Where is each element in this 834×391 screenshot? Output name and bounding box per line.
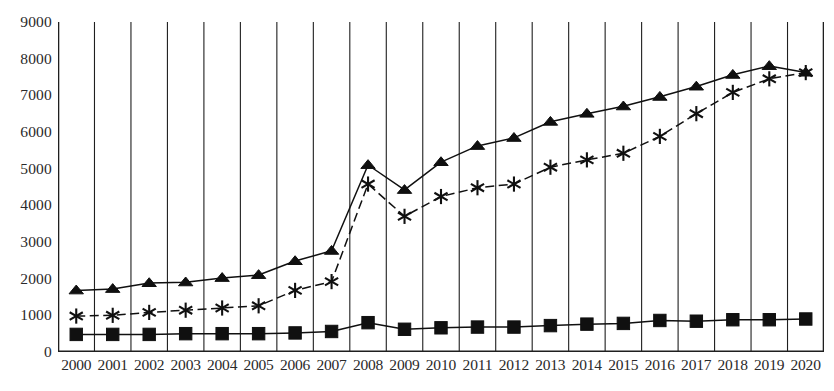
x-axis-tick-label: 2008 bbox=[350, 356, 386, 384]
y-axis-tick-label: 2000 bbox=[20, 270, 52, 288]
marker-square bbox=[800, 313, 812, 325]
marker-triangle bbox=[361, 160, 375, 169]
marker-asterisk bbox=[617, 146, 630, 161]
x-axis-tick-label: 2009 bbox=[386, 356, 422, 384]
x-axis-tick-label: 2020 bbox=[787, 356, 823, 384]
marker-square bbox=[435, 322, 447, 334]
marker-asterisk bbox=[580, 152, 593, 167]
x-axis-tick-label: 2005 bbox=[240, 356, 276, 384]
x-axis-tick-label: 2013 bbox=[532, 356, 568, 384]
marker-square bbox=[143, 328, 155, 340]
x-axis-tick-label: 2003 bbox=[167, 356, 203, 384]
x-axis-tick-label: 2000 bbox=[58, 356, 94, 384]
y-axis-tick-label: 9000 bbox=[20, 13, 52, 31]
marker-square bbox=[581, 318, 593, 330]
marker-asterisk bbox=[471, 180, 484, 195]
marker-triangle bbox=[142, 278, 156, 287]
y-axis-tick-label: 1000 bbox=[20, 306, 52, 324]
x-axis-tick-label: 2014 bbox=[569, 356, 605, 384]
series-triangle-markers bbox=[69, 61, 813, 294]
x-axis-tick-label: 2002 bbox=[131, 356, 167, 384]
marker-square bbox=[289, 327, 301, 339]
x-axis: 2000200120022003200420052006200720082009… bbox=[58, 356, 824, 384]
series-square-markers bbox=[70, 313, 812, 341]
x-axis-tick-label: 2016 bbox=[642, 356, 678, 384]
marker-square bbox=[362, 316, 374, 328]
marker-asterisk bbox=[763, 71, 776, 86]
marker-asterisk bbox=[398, 209, 411, 224]
x-axis-tick-label: 2001 bbox=[94, 356, 130, 384]
marker-asterisk bbox=[690, 106, 703, 121]
marker-square bbox=[179, 327, 191, 339]
y-axis-tick-label: 3000 bbox=[20, 233, 52, 251]
line-chart: 9000800070006000500040003000200010000 20… bbox=[0, 0, 834, 391]
x-axis-tick-label: 2012 bbox=[496, 356, 532, 384]
marker-square bbox=[398, 323, 410, 335]
marker-asterisk bbox=[434, 189, 447, 204]
marker-square bbox=[107, 328, 119, 340]
series-square bbox=[70, 313, 812, 341]
x-axis-tick-label: 2018 bbox=[714, 356, 750, 384]
marker-asterisk bbox=[544, 160, 557, 175]
series-triangle bbox=[69, 61, 813, 294]
x-axis-tick-label: 2007 bbox=[313, 356, 349, 384]
marker-square bbox=[471, 321, 483, 333]
y-axis-tick-label: 8000 bbox=[20, 50, 52, 68]
x-axis-tick-label: 2004 bbox=[204, 356, 240, 384]
x-axis-tick-label: 2019 bbox=[751, 356, 787, 384]
marker-asterisk bbox=[325, 274, 338, 289]
marker-asterisk bbox=[507, 176, 520, 191]
marker-square bbox=[325, 325, 337, 337]
y-axis-tick-label: 0 bbox=[44, 343, 52, 361]
plot-svg bbox=[58, 22, 824, 352]
marker-square bbox=[654, 314, 666, 326]
y-axis-tick-label: 6000 bbox=[20, 123, 52, 141]
marker-asterisk bbox=[361, 176, 374, 191]
marker-square bbox=[216, 327, 228, 339]
marker-triangle bbox=[762, 61, 776, 70]
marker-asterisk bbox=[726, 85, 739, 100]
marker-square bbox=[727, 314, 739, 326]
x-axis-tick-label: 2006 bbox=[277, 356, 313, 384]
y-axis-tick-label: 5000 bbox=[20, 160, 52, 178]
marker-asterisk bbox=[289, 283, 302, 298]
marker-triangle bbox=[507, 133, 521, 142]
marker-square bbox=[252, 327, 264, 339]
series-triangle-line bbox=[76, 66, 806, 290]
marker-square bbox=[70, 328, 82, 340]
marker-square bbox=[763, 314, 775, 326]
y-axis-tick-label: 4000 bbox=[20, 196, 52, 214]
marker-triangle bbox=[324, 245, 338, 254]
marker-square bbox=[690, 315, 702, 327]
x-axis-tick-label: 2011 bbox=[459, 356, 495, 384]
x-axis-tick-label: 2017 bbox=[678, 356, 714, 384]
plot-area bbox=[58, 22, 824, 352]
y-axis-tick-label: 7000 bbox=[20, 86, 52, 104]
marker-square bbox=[544, 319, 556, 331]
x-axis-tick-label: 2010 bbox=[423, 356, 459, 384]
marker-square bbox=[508, 321, 520, 333]
marker-square bbox=[617, 317, 629, 329]
y-axis: 9000800070006000500040003000200010000 bbox=[0, 0, 52, 391]
marker-asterisk bbox=[653, 129, 666, 144]
marker-triangle bbox=[251, 270, 265, 279]
x-axis-tick-label: 2015 bbox=[605, 356, 641, 384]
marker-triangle bbox=[434, 157, 448, 166]
gridlines bbox=[59, 22, 824, 352]
